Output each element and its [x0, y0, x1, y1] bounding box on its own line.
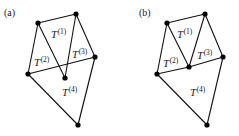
triangle-label: T(1) [177, 27, 193, 40]
triangle-label: T(3) [72, 47, 88, 60]
vertex-dot [92, 54, 97, 59]
panel-label: (b) [139, 7, 151, 19]
edge [38, 14, 76, 23]
triangle-label: T(2) [34, 55, 50, 68]
edge [189, 57, 223, 67]
panel-a: (a)T(1)T(2)T(3)T(4) [4, 7, 98, 128]
panel-b: (b)T(1)T(2)T(3)T(4) [139, 7, 226, 128]
edge [157, 67, 189, 74]
edge [78, 57, 95, 125]
triangle-label: T(4) [190, 85, 206, 98]
panel-label: (a) [4, 7, 15, 19]
vertex-dot [75, 122, 80, 127]
vertex-dot [35, 20, 40, 25]
vertex-dot [73, 11, 78, 16]
vertex-dot [25, 71, 30, 76]
vertex-dot [186, 64, 191, 69]
edge [28, 74, 78, 125]
vertex-dot [202, 11, 207, 16]
triangle-label: T(2) [163, 56, 179, 69]
vertex-dot [204, 122, 209, 127]
triangle-label: T(1) [51, 27, 67, 40]
edge [167, 14, 205, 23]
triangle-label: T(3) [197, 48, 213, 61]
vertex-dot [62, 75, 67, 80]
vertex-dot [154, 71, 159, 76]
vertex-dot [220, 54, 225, 59]
edge [207, 57, 223, 125]
triangle-label: T(4) [62, 85, 78, 98]
vertex-dot [164, 20, 169, 25]
triangulation-diagram: (a)T(1)T(2)T(3)T(4) (b)T(1)T(2)T(3)T(4) [0, 0, 239, 136]
edge [65, 14, 76, 78]
edge [157, 74, 207, 125]
